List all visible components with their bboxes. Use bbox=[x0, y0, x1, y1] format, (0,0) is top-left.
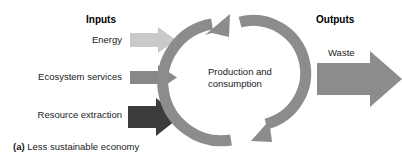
diagram-shapes bbox=[0, 0, 402, 164]
cycle-arc-right bbox=[240, 20, 306, 124]
ecosystem-services-arrow-right-icon bbox=[130, 65, 177, 90]
cycle-arc-left bbox=[163, 24, 231, 141]
figure-caption: (a) Less sustainable economy bbox=[13, 141, 139, 152]
figure-caption-text: Less sustainable economy bbox=[27, 141, 139, 152]
cycle-arrowhead-bottom bbox=[251, 115, 274, 142]
figure-less-sustainable-economy: Inputs Outputs Energy Ecosystem services… bbox=[0, 0, 402, 164]
waste-arrow-right-icon bbox=[317, 51, 402, 107]
figure-caption-index: (a) bbox=[13, 141, 25, 152]
cycle-arrows-icon bbox=[163, 14, 306, 142]
